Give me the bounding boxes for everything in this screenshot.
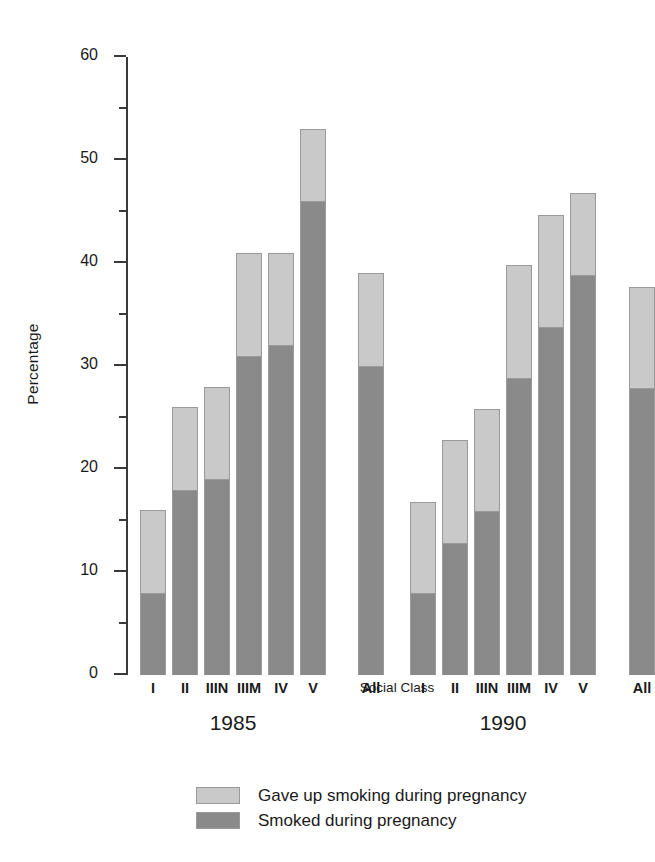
y-tick-major: 60	[114, 55, 126, 57]
x-tick-label-ii: II	[181, 681, 189, 696]
x-tick-label-v: V	[578, 681, 588, 696]
y-tick-label: 50	[80, 150, 98, 166]
x-tick-label-iiim: IIIM	[507, 681, 531, 696]
x-tick-label-v: V	[308, 681, 318, 696]
bar-segment-smoked[interactable]	[236, 356, 262, 675]
bar-segment-smoked[interactable]	[442, 543, 468, 675]
bar-stack[interactable]	[538, 215, 564, 675]
y-tick-minor	[119, 107, 126, 109]
bar-segment-gave-up[interactable]	[629, 287, 655, 388]
x-tick-label-i: I	[151, 681, 155, 696]
bar-segment-smoked[interactable]	[629, 388, 655, 675]
bar-segment-smoked[interactable]	[410, 593, 436, 675]
bar-segment-smoked[interactable]	[268, 345, 294, 675]
legend-item[interactable]: Gave up smoking during pregnancy	[196, 783, 526, 808]
y-tick-label: 10	[80, 562, 98, 578]
y-tick-major: 20	[114, 467, 126, 469]
bar-segment-gave-up[interactable]	[538, 215, 564, 327]
bar-segment-gave-up[interactable]	[204, 387, 230, 480]
legend-label: Gave up smoking during pregnancy	[258, 787, 526, 804]
bar-segment-gave-up[interactable]	[140, 510, 166, 592]
bar-segment-gave-up[interactable]	[358, 273, 384, 366]
y-tick-label: 60	[80, 47, 98, 63]
bar-segment-gave-up[interactable]	[300, 129, 326, 201]
x-tick-label-all: All	[633, 681, 652, 696]
bar-stack[interactable]	[204, 387, 230, 675]
y-tick-label: 0	[89, 665, 98, 681]
y-tick-major: 30	[114, 364, 126, 366]
plot-area: 0102030405060 IIIIIINIIIMIVVAllIIIIIINII…	[126, 57, 621, 675]
x-axis-title: Social Class	[360, 681, 434, 695]
legend-label: Smoked during pregnancy	[258, 812, 456, 829]
y-tick-minor	[119, 622, 126, 624]
x-tick-label-iv: IV	[544, 681, 558, 696]
y-tick-minor	[119, 210, 126, 212]
group-label-1990: 1990	[480, 712, 527, 733]
x-tick-label-iiin: IIIN	[476, 681, 499, 696]
legend-item[interactable]: Smoked during pregnancy	[196, 808, 526, 833]
group-label-1985: 1985	[210, 712, 257, 733]
y-tick-minor	[119, 519, 126, 521]
bar-stack[interactable]	[474, 409, 500, 675]
bar-stack[interactable]	[300, 129, 326, 675]
y-tick-label: 40	[80, 253, 98, 269]
y-tick-major: 50	[114, 158, 126, 160]
bar-stack[interactable]	[172, 407, 198, 675]
y-tick-minor	[119, 313, 126, 315]
y-tick-major: 0	[114, 673, 126, 675]
bar-segment-smoked[interactable]	[204, 479, 230, 675]
legend-swatch	[196, 812, 240, 829]
axis-origin	[126, 673, 128, 675]
bar-stack[interactable]	[570, 193, 596, 675]
bar-segment-smoked[interactable]	[474, 511, 500, 675]
bar-segment-smoked[interactable]	[300, 201, 326, 675]
bar-segment-smoked[interactable]	[570, 275, 596, 675]
bar-stack[interactable]	[268, 253, 294, 675]
bar-segment-gave-up[interactable]	[410, 502, 436, 593]
bar-segment-gave-up[interactable]	[570, 193, 596, 275]
bar-segment-smoked[interactable]	[172, 490, 198, 675]
bar-segment-gave-up[interactable]	[506, 265, 532, 378]
bar-segment-gave-up[interactable]	[268, 253, 294, 346]
y-tick-major: 40	[114, 261, 126, 263]
bar-segment-smoked[interactable]	[140, 593, 166, 675]
x-tick-label-iv: IV	[274, 681, 288, 696]
y-axis-line	[126, 57, 128, 675]
y-tick-major: 10	[114, 570, 126, 572]
bar-segment-gave-up[interactable]	[442, 440, 468, 543]
x-tick-label-ii: II	[451, 681, 459, 696]
bar-segment-gave-up[interactable]	[474, 409, 500, 511]
bar-segment-smoked[interactable]	[506, 378, 532, 675]
bar-segment-smoked[interactable]	[538, 327, 564, 675]
y-tick-minor	[119, 416, 126, 418]
legend-swatch	[196, 787, 240, 804]
bar-segment-gave-up[interactable]	[236, 253, 262, 356]
y-tick-label: 30	[80, 356, 98, 372]
y-axis-title: Percentage	[24, 284, 42, 444]
bar-stack[interactable]	[629, 287, 655, 675]
chart-legend: Gave up smoking during pregnancySmoked d…	[196, 783, 526, 833]
bar-stack[interactable]	[410, 502, 436, 675]
bar-stack[interactable]	[506, 265, 532, 675]
bar-stack[interactable]	[140, 510, 166, 675]
bar-stack[interactable]	[236, 253, 262, 675]
x-tick-label-iiim: IIIM	[237, 681, 261, 696]
bar-segment-smoked[interactable]	[358, 366, 384, 675]
x-tick-label-iiin: IIIN	[206, 681, 229, 696]
bar-stack[interactable]	[358, 273, 384, 675]
bar-stack[interactable]	[442, 440, 468, 675]
bar-segment-gave-up[interactable]	[172, 407, 198, 489]
y-tick-label: 20	[80, 459, 98, 475]
